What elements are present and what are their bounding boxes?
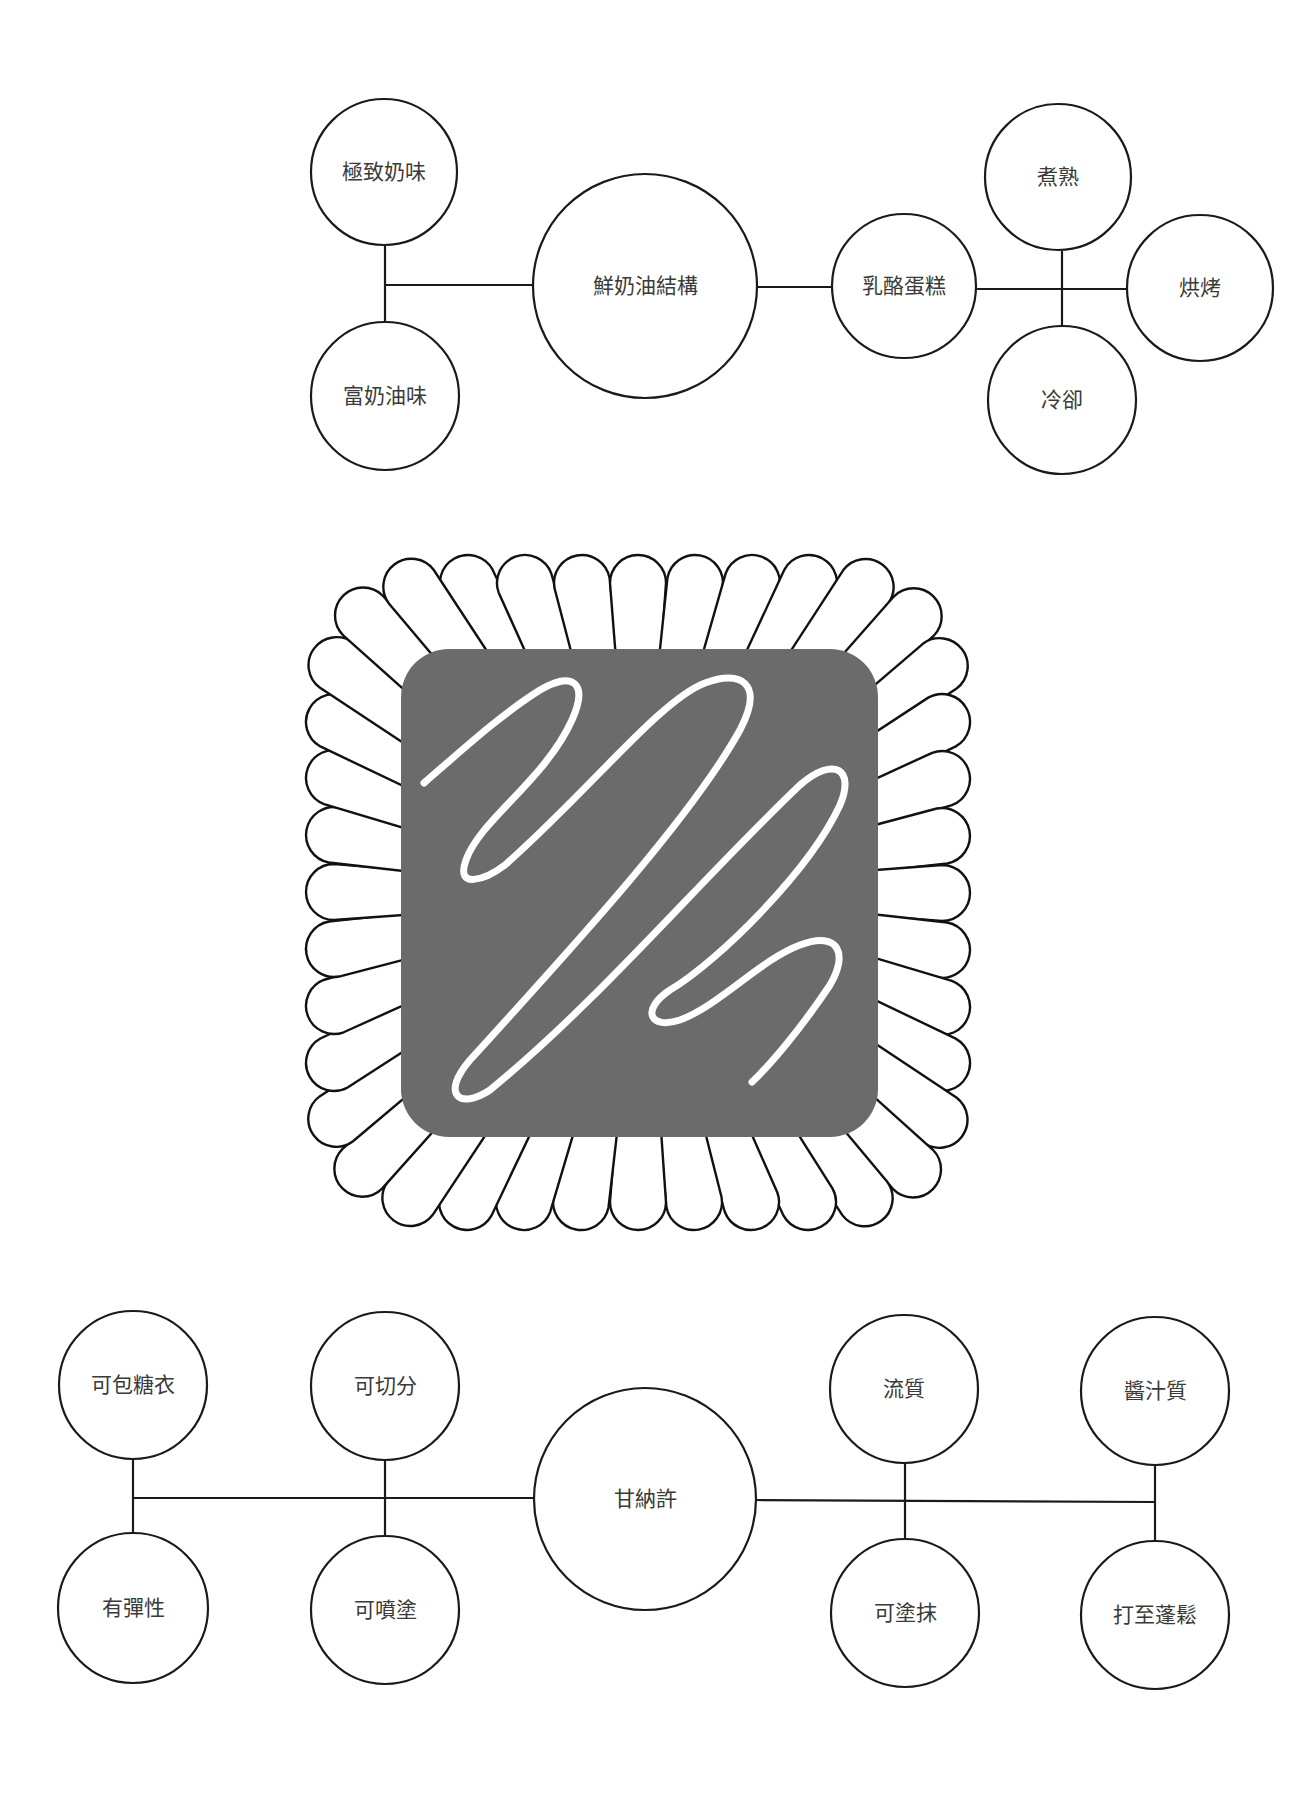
node-whippable: 打至蓬鬆 <box>1081 1541 1229 1689</box>
chocolate-bonbon-illustration <box>306 555 970 1230</box>
node-rich-milk: 極致奶味 <box>311 99 457 245</box>
node-sliceable: 可切分 <box>311 1312 459 1460</box>
node-label: 可包糖衣 <box>91 1373 175 1397</box>
node-label: 甘納許 <box>614 1487 677 1511</box>
node-fluid: 流質 <box>830 1315 978 1463</box>
node-saucy: 醬汁質 <box>1081 1317 1229 1465</box>
node-label: 煮熟 <box>1037 165 1079 189</box>
node-spreadable: 可塗抹 <box>831 1539 979 1687</box>
node-label: 可塗抹 <box>874 1601 937 1625</box>
node-label: 鮮奶油結構 <box>593 274 698 298</box>
connector-line <box>756 1500 1155 1502</box>
node-coatable: 可包糖衣 <box>59 1311 207 1459</box>
node-label: 可切分 <box>354 1374 417 1398</box>
chocolate-square <box>401 649 878 1137</box>
node-label: 流質 <box>883 1377 925 1401</box>
node-elastic: 有彈性 <box>58 1533 208 1683</box>
node-ganache: 甘納許 <box>534 1388 756 1610</box>
node-label: 打至蓬鬆 <box>1113 1603 1197 1627</box>
node-label: 富奶油味 <box>343 384 427 408</box>
node-cheesecake: 乳酪蛋糕 <box>832 214 976 358</box>
node-label: 有彈性 <box>102 1596 165 1620</box>
node-rich-cream: 富奶油味 <box>311 322 459 470</box>
node-label: 乳酪蛋糕 <box>862 274 946 298</box>
node-cooled: 冷卻 <box>988 326 1136 474</box>
node-group: 可包糖衣有彈性可切分可噴塗甘納許流質可塗抹醬汁質打至蓬鬆 <box>58 1311 1229 1689</box>
node-sprayable: 可噴塗 <box>311 1536 459 1684</box>
node-baked: 烘烤 <box>1127 215 1273 361</box>
diagram-canvas: 極致奶味富奶油味鮮奶油結構乳酪蛋糕煮熟烘烤冷卻 可包糖衣有彈性可切分可噴塗甘納許… <box>0 0 1316 1794</box>
node-cooked: 煮熟 <box>985 104 1131 250</box>
node-label: 冷卻 <box>1041 388 1083 412</box>
node-label: 醬汁質 <box>1124 1379 1187 1403</box>
node-label: 極致奶味 <box>342 160 426 184</box>
node-cream-structure: 鮮奶油結構 <box>533 174 757 398</box>
ganache-diagram: 可包糖衣有彈性可切分可噴塗甘納許流質可塗抹醬汁質打至蓬鬆 <box>58 1311 1229 1689</box>
node-label: 烘烤 <box>1179 276 1221 300</box>
node-label: 可噴塗 <box>354 1598 417 1622</box>
cream-structure-diagram: 極致奶味富奶油味鮮奶油結構乳酪蛋糕煮熟烘烤冷卻 <box>311 99 1273 474</box>
